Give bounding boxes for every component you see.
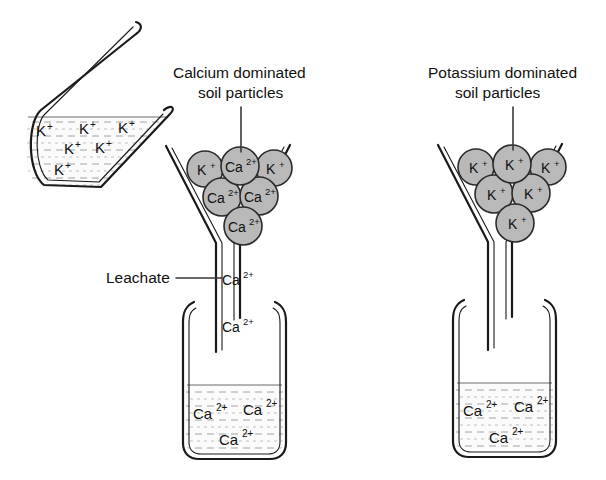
calcium-caption-line2: soil particles <box>198 84 284 101</box>
ion-charge: 2+ <box>249 216 260 227</box>
ion-symbol: K <box>505 157 515 173</box>
ion-charge: 2+ <box>265 186 276 197</box>
ion-symbol: K <box>64 140 74 157</box>
ion-symbol: K <box>54 161 64 178</box>
ion-charge: + <box>75 139 81 150</box>
ion-symbol: Ca <box>219 431 239 448</box>
ion-charge: 2+ <box>266 398 278 409</box>
ion-symbol: Ca <box>489 429 509 446</box>
calcium-caption-line1: Calcium dominated <box>173 64 306 81</box>
ion-charge: 2+ <box>537 395 549 406</box>
ion-symbol: Ca <box>514 398 534 415</box>
ion-charge: + <box>279 159 285 170</box>
ion-charge: 2+ <box>512 426 524 437</box>
ion-symbol: K <box>541 160 551 176</box>
ion-symbol: Ca <box>243 401 263 418</box>
ion-symbol: K <box>469 160 479 176</box>
right-beaker: Ca 2+ Ca 2+ Ca 2+ <box>453 300 557 457</box>
ion-symbol: K <box>79 120 89 137</box>
ion-charge: + <box>482 158 488 169</box>
ion-symbol: Ca <box>193 405 213 422</box>
drip-symbol: Ca <box>222 272 240 288</box>
ion-charge: + <box>65 160 71 171</box>
ion-symbol: Ca <box>463 402 483 419</box>
ion-charge: 2+ <box>242 428 254 439</box>
ion-symbol: Ca <box>207 190 225 206</box>
ion-symbol: Ca <box>225 159 243 175</box>
ion-charge: + <box>129 118 135 129</box>
potassium-caption-group: Potassium dominated soil particles <box>428 64 577 150</box>
ion-symbol: Ca <box>228 219 246 235</box>
left-funnel-drips: Ca 2+ Ca 2+ <box>222 269 254 335</box>
ion-charge: + <box>537 184 543 195</box>
ion-charge: + <box>554 158 560 169</box>
leachate-caption-group: Leachate <box>106 269 222 286</box>
drip-charge: 2+ <box>243 269 254 280</box>
ion-charge: + <box>90 119 96 130</box>
cation-exchange-diagram: K + Ca 2+ K + Ca 2+ Ca 2+ Ca 2+ Ca 2+ Ca… <box>0 0 606 480</box>
ion-charge: + <box>521 214 527 225</box>
ion-charge: + <box>518 155 524 166</box>
drip-symbol: Ca <box>222 319 240 335</box>
ion-symbol: K <box>487 187 497 203</box>
calcium-caption-group: Calcium dominated soil particles <box>173 64 306 152</box>
ion-symbol: K <box>524 186 534 202</box>
ion-charge: 2+ <box>228 187 239 198</box>
ion-symbol: K <box>118 119 128 136</box>
potassium-caption-line1: Potassium dominated <box>428 64 577 81</box>
left-funnel-assembly: K + Ca 2+ K + Ca 2+ Ca 2+ Ca 2+ Ca 2+ Ca… <box>166 145 292 352</box>
ion-symbol: K <box>36 122 46 139</box>
leachate-caption: Leachate <box>106 269 170 286</box>
ion-charge: 2+ <box>246 156 257 167</box>
ion-symbol: K <box>508 216 518 232</box>
ion-charge: 2+ <box>486 399 498 410</box>
potassium-caption-line2: soil particles <box>455 84 541 101</box>
ion-charge: + <box>500 185 506 196</box>
right-funnel-assembly: K + K + K + K + K + K + <box>438 144 566 350</box>
diagram-canvas: K + Ca 2+ K + Ca 2+ Ca 2+ Ca 2+ Ca 2+ Ca… <box>0 0 606 480</box>
ion-charge: + <box>106 138 112 149</box>
ion-symbol: Ca <box>244 189 262 205</box>
drip-charge: 2+ <box>243 316 254 327</box>
ion-symbol: K <box>197 162 207 178</box>
ion-symbol: K <box>266 161 276 177</box>
ion-charge: + <box>47 121 53 132</box>
potassium-pitcher <box>20 22 180 197</box>
ion-charge: 2+ <box>216 402 228 413</box>
ion-charge: + <box>210 160 216 171</box>
ion-symbol: K <box>95 139 105 156</box>
